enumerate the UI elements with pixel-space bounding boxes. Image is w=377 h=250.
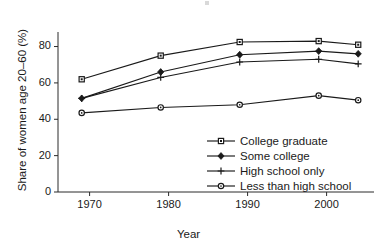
x-tick-label: 2000 xyxy=(314,198,338,210)
y-tick-label: 20 xyxy=(39,149,51,161)
y-tick-label: 60 xyxy=(39,76,51,88)
artifact-speck xyxy=(205,1,209,5)
data-point-marker xyxy=(158,105,163,110)
data-point-marker xyxy=(355,60,362,67)
series-less-than-high-school xyxy=(79,93,361,116)
series-line xyxy=(82,59,359,98)
x-tick-label: 1980 xyxy=(156,198,180,210)
y-tick-label: 40 xyxy=(39,112,51,124)
data-point-marker xyxy=(79,110,84,115)
data-point-marker xyxy=(355,50,361,57)
y-axis-title: Share of women age 20–60 (%) xyxy=(16,25,28,195)
x-tick-label: 1990 xyxy=(235,198,259,210)
data-point-marker xyxy=(237,102,242,107)
data-point-marker xyxy=(315,56,322,63)
data-point-marker xyxy=(79,77,84,82)
data-point-marker xyxy=(78,95,85,102)
x-tick-label: 1970 xyxy=(77,198,101,210)
data-point-marker xyxy=(316,38,321,43)
chart-figure: 0204060801970198019902000 Share of women… xyxy=(0,0,377,250)
legend-label: College graduate xyxy=(236,135,328,147)
data-point-marker xyxy=(158,53,163,58)
y-tick-label: 80 xyxy=(39,39,51,51)
legend-marker-open-circle-icon xyxy=(206,179,236,193)
chart-legend: College graduateSome collegeHigh school … xyxy=(206,133,351,193)
series-line xyxy=(82,51,359,98)
legend-label: High school only xyxy=(236,165,324,177)
y-tick-label: 0 xyxy=(45,185,51,197)
legend-item[interactable]: Less than high school xyxy=(206,178,351,193)
data-point-marker xyxy=(157,74,164,81)
data-point-marker xyxy=(356,97,361,102)
series-line xyxy=(82,41,359,79)
legend-marker-filled-diamond-icon xyxy=(206,149,236,163)
data-point-marker xyxy=(316,48,322,55)
data-point-marker xyxy=(236,59,243,66)
legend-label: Less than high school xyxy=(236,180,351,192)
legend-label: Some college xyxy=(236,150,310,162)
legend-item[interactable]: Some college xyxy=(206,148,351,163)
data-point-marker xyxy=(237,39,242,44)
legend-marker-open-square-icon xyxy=(206,134,236,148)
data-point-marker xyxy=(316,93,321,98)
data-point-marker xyxy=(356,42,361,47)
x-axis-title: Year xyxy=(0,228,377,240)
legend-marker-plus-icon xyxy=(206,164,236,178)
legend-item[interactable]: High school only xyxy=(206,163,351,178)
legend-item[interactable]: College graduate xyxy=(206,133,351,148)
data-point-marker xyxy=(237,51,243,58)
